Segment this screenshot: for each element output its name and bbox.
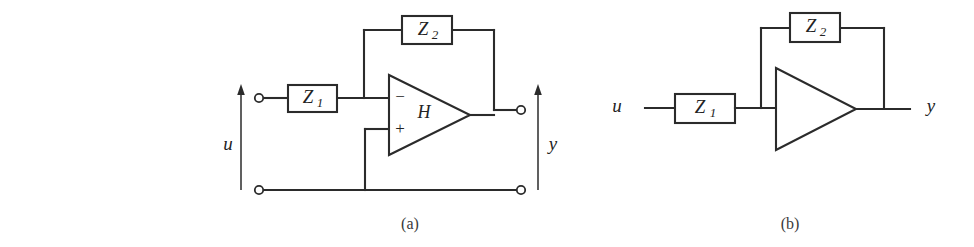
output-port-label-b: y bbox=[925, 95, 936, 116]
input-port-label-a: u bbox=[223, 133, 233, 154]
terminal-input-top-a bbox=[255, 94, 263, 102]
amplifier-gain-label-a: H bbox=[417, 102, 432, 122]
impedance-z1-subscript-b: 1 bbox=[710, 105, 717, 120]
amplifier-triangle-b bbox=[776, 68, 856, 150]
impedance-z1-label-a: Z bbox=[303, 86, 314, 107]
terminal-input-bottom-a bbox=[255, 186, 263, 194]
impedance-z1-subscript-a: 1 bbox=[317, 95, 324, 110]
impedance-z2-label-b: Z bbox=[806, 15, 817, 36]
panel-b-group: u Z 1 Z 2 y (b) bbox=[612, 13, 936, 233]
panel-caption-a: (a) bbox=[401, 215, 419, 233]
impedance-z1-label-b: Z bbox=[695, 96, 706, 117]
input-port-label-b: u bbox=[612, 95, 622, 116]
panel-a-group: u y Z 2 Z 1 bbox=[223, 16, 558, 233]
circuit-figure-svg: u y Z 2 Z 1 bbox=[0, 0, 974, 247]
terminal-output-bottom-a bbox=[517, 186, 525, 194]
inverting-input-sign-a: − bbox=[395, 87, 405, 106]
output-port-arrow-b-side bbox=[534, 84, 542, 190]
panel-caption-b: (b) bbox=[781, 215, 800, 233]
noninverting-input-sign-a: + bbox=[395, 119, 405, 138]
impedance-z2-subscript-a: 2 bbox=[432, 27, 439, 42]
impedance-z2-label-a: Z bbox=[418, 18, 429, 39]
terminal-output-top-a bbox=[517, 106, 525, 114]
impedance-z2-subscript-b: 2 bbox=[820, 24, 827, 39]
figure-root: u y Z 2 Z 1 bbox=[0, 0, 974, 247]
input-port-arrow-a bbox=[237, 84, 245, 190]
output-port-label-a: y bbox=[547, 133, 558, 154]
